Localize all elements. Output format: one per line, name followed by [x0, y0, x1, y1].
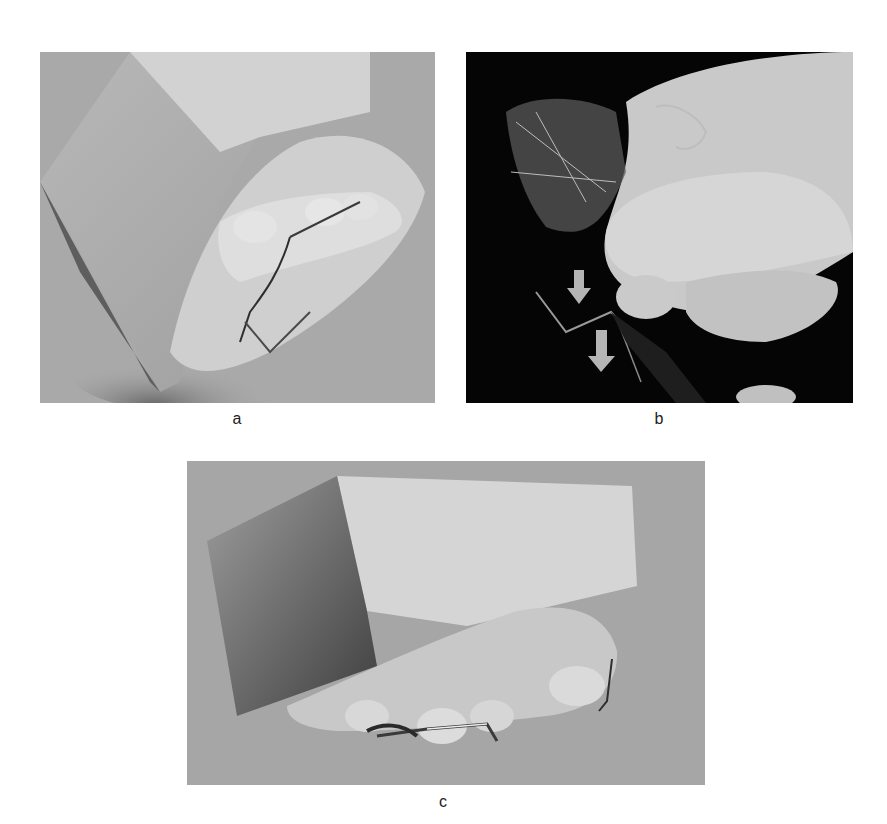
panel-label-b: b	[644, 410, 674, 428]
panel-label-a: a	[222, 410, 252, 428]
hand-holding-appliance-photo-b	[466, 52, 853, 403]
dental-cast-photo-c	[187, 461, 705, 785]
panel-label-c: c	[428, 793, 458, 811]
photo-panel-b	[466, 52, 853, 403]
dental-cast-photo-a	[40, 52, 435, 403]
photo-panel-c	[187, 461, 705, 785]
photo-panel-a	[40, 52, 435, 403]
